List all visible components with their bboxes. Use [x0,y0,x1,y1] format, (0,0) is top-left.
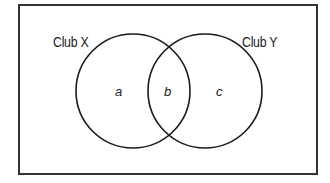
club-x-circle [76,34,190,148]
club-x-label: Club X [53,35,88,49]
region-c-label: c [216,85,223,98]
club-y-label: Club Y [242,35,277,49]
region-a-label: a [115,85,122,98]
region-b-label: b [164,85,171,98]
